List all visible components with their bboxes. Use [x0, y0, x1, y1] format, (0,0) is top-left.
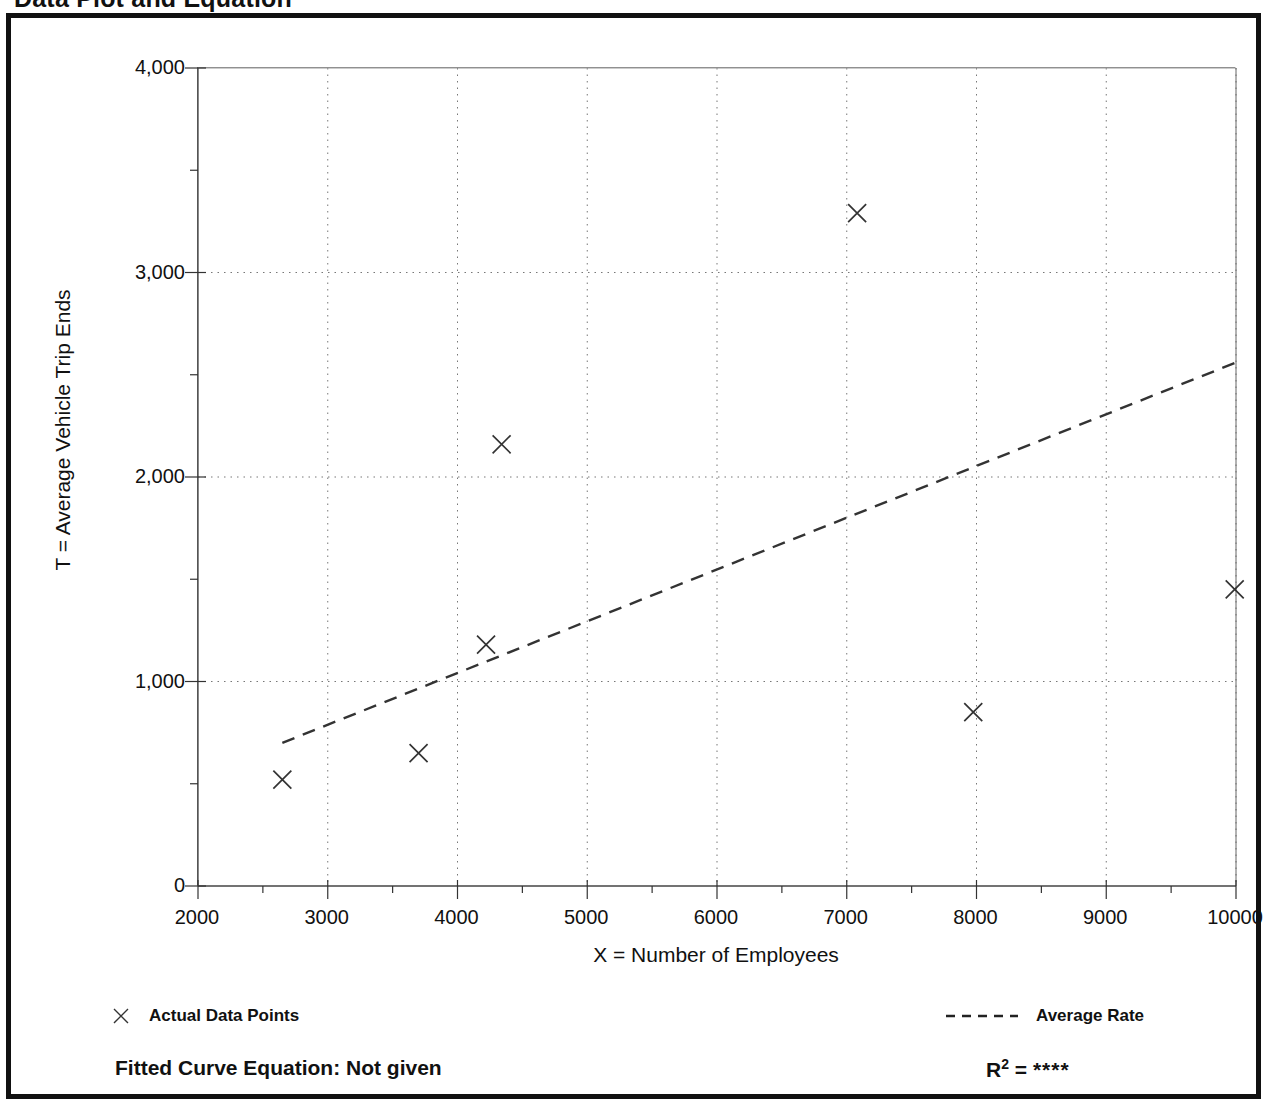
figure-frame: 01,0002,0003,0004,000 T = Average Vehicl… [6, 13, 1261, 1099]
data-point-marker [410, 744, 428, 762]
x-tick-label-10000: 10000 [1207, 906, 1263, 929]
data-point-marker [273, 771, 291, 789]
x-axis-title: X = Number of Employees [197, 943, 1235, 967]
r2-value: **** [1033, 1058, 1070, 1081]
figure-inner: 01,0002,0003,0004,000 T = Average Vehicl… [11, 18, 1256, 1094]
x-tick-label-6000: 6000 [694, 906, 739, 929]
x-tick-label-2000: 2000 [175, 906, 220, 929]
figure-page: Data Plot and Equation 01,0002,0003,0004… [0, 0, 1267, 1108]
y-tick-label-3000: 3,000 [135, 260, 185, 283]
y-axis-title: T = Average Vehicle Trip Ends [51, 130, 75, 730]
x-tick-label-8000: 8000 [953, 906, 998, 929]
y-tick-label-4000: 4,000 [135, 56, 185, 79]
page-title: Data Plot and Equation [14, 0, 292, 13]
x-tick-label-4000: 4000 [434, 906, 479, 929]
x-tick-label-3000: 3000 [305, 906, 350, 929]
gridlines [198, 68, 1236, 886]
r-squared-annotation: R2 = **** [986, 1056, 1070, 1082]
x-tick-label-7000: 7000 [824, 906, 869, 929]
y-axis-tick-labels: 01,0002,0003,0004,000 [61, 67, 185, 885]
legend-label-average: Average Rate [1036, 1006, 1144, 1026]
r2-superscript: 2 [1001, 1056, 1009, 1072]
x-axis-tick-labels: 2000300040005000600070008000900010000 [197, 906, 1235, 936]
y-tick-label-0: 0 [174, 874, 185, 897]
data-point-marker [493, 435, 511, 453]
legend-item-actual-data-points: Actual Data Points [111, 1006, 299, 1026]
x-tick-label-5000: 5000 [564, 906, 609, 929]
dashed-line-icon [946, 1010, 1018, 1022]
data-point-marker [477, 636, 495, 654]
average-rate-line [282, 362, 1236, 742]
data-point-marker [848, 204, 866, 222]
y-tick-label-2000: 2,000 [135, 465, 185, 488]
y-tick-label-1000: 1,000 [135, 669, 185, 692]
axis-lines [198, 68, 1236, 886]
plot-area [197, 67, 1235, 885]
legend-label-actual: Actual Data Points [149, 1006, 299, 1026]
data-point-markers [273, 204, 1243, 788]
r2-equals: = [1009, 1058, 1033, 1081]
x-marker-icon [111, 1006, 131, 1026]
data-point-marker [964, 703, 982, 721]
fitted-curve-equation: Fitted Curve Equation: Not given [115, 1056, 442, 1080]
axis-ticks [185, 68, 1236, 899]
data-point-marker [1226, 580, 1244, 598]
plot-canvas [198, 68, 1236, 886]
r2-prefix: R [986, 1058, 1001, 1081]
x-tick-label-9000: 9000 [1083, 906, 1128, 929]
legend-item-average-rate: Average Rate [946, 1006, 1144, 1026]
